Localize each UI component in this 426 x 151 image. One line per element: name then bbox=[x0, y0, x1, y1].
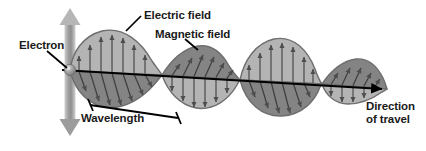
em-wave-diagram: Electron Electric field Magnetic field W… bbox=[0, 0, 426, 151]
magnetic-field-label: Magnetic field bbox=[155, 28, 230, 41]
direction-line-1: Direction bbox=[366, 100, 415, 112]
electron-leader-line bbox=[47, 51, 67, 68]
magnetic-field-lobe-1 bbox=[70, 71, 162, 108]
electric-field-leader-line bbox=[126, 16, 141, 31]
wavelength-label: Wavelength bbox=[81, 112, 144, 125]
electric-field-lobe-1 bbox=[70, 30, 162, 75]
electron-label: Electron bbox=[19, 39, 64, 52]
direction-of-travel-label: Directionof travel bbox=[366, 100, 415, 126]
electron-sphere-icon bbox=[64, 64, 75, 75]
wave-illustration bbox=[0, 0, 426, 151]
magnetic-field-lobe-2 bbox=[162, 46, 240, 80]
direction-line-2: of travel bbox=[366, 113, 410, 125]
electric-field-lobe-3 bbox=[240, 38, 322, 84]
electric-field-label: Electric field bbox=[144, 9, 211, 22]
